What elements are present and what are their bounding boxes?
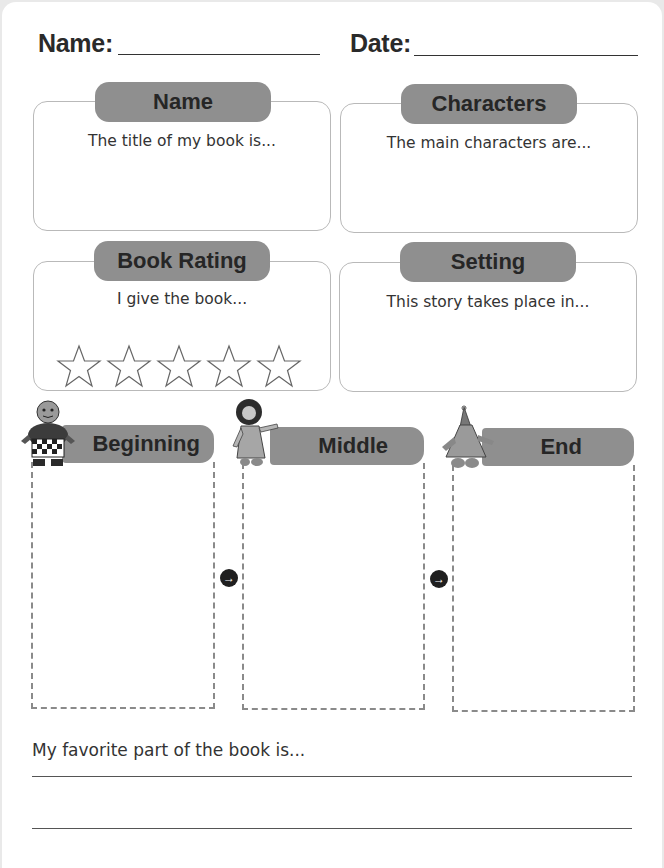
worksheet-page: Name: Date: The title of my book is... N… [2, 2, 662, 868]
end-box[interactable] [452, 465, 635, 712]
end-heading: End [482, 428, 634, 466]
favorite-line-1[interactable] [32, 776, 632, 777]
boy-character-icon [19, 399, 77, 473]
star-icon[interactable] [256, 344, 302, 388]
wizard-character-icon [440, 405, 500, 475]
name-prompt: The title of my book is... [34, 132, 330, 150]
arrow-right-icon: → [220, 569, 238, 587]
characters-prompt: The main characters are... [341, 134, 637, 152]
setting-heading: Setting [400, 242, 576, 282]
star-icon[interactable] [106, 344, 152, 388]
name-field[interactable] [118, 54, 320, 55]
star-icon[interactable] [156, 344, 202, 388]
characters-heading: Characters [401, 84, 577, 124]
name-label: Name: [38, 29, 113, 58]
favorite-prompt: My favorite part of the book is... [32, 740, 305, 760]
girl-character-icon [231, 398, 283, 472]
favorite-line-2[interactable] [32, 828, 632, 829]
star-rating[interactable] [56, 344, 302, 388]
star-icon[interactable] [56, 344, 102, 388]
star-icon[interactable] [206, 344, 252, 388]
name-heading: Name [95, 82, 271, 122]
beginning-title: Beginning [92, 431, 200, 457]
middle-box[interactable] [242, 463, 425, 710]
rating-heading: Book Rating [94, 241, 270, 281]
beginning-box[interactable] [31, 462, 215, 709]
middle-heading: Middle [270, 427, 424, 465]
rating-prompt: I give the book... [34, 290, 330, 308]
setting-prompt: This story takes place in... [340, 293, 636, 311]
beginning-heading: Beginning [62, 425, 214, 463]
arrow-right-icon: → [430, 570, 448, 588]
end-title: End [540, 434, 582, 460]
date-label: Date: [350, 29, 411, 58]
date-field[interactable] [414, 55, 638, 56]
middle-title: Middle [318, 433, 388, 459]
